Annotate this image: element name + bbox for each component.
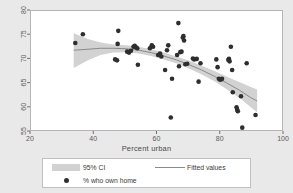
data-point [159, 54, 164, 59]
y-tick-label: 75 [20, 30, 27, 38]
data-point [116, 29, 121, 34]
data-point [198, 61, 203, 66]
y-tick-label: 60 [20, 103, 27, 111]
data-point [230, 68, 235, 73]
chart-figure: 55606570758020406080100 Percent urban 95… [0, 0, 293, 193]
data-point [239, 94, 244, 99]
data-point [253, 113, 258, 118]
data-point [179, 49, 184, 54]
data-point [220, 76, 225, 81]
data-point [240, 125, 245, 130]
data-point [196, 79, 201, 84]
data-point [181, 34, 186, 39]
chart-legend: 95% CI Fitted values % who own home [42, 158, 251, 188]
data-point [227, 59, 232, 64]
data-point [136, 62, 141, 67]
data-point [163, 68, 168, 73]
data-point [230, 90, 235, 95]
y-tick-label: 70 [20, 54, 27, 62]
data-point [166, 43, 171, 48]
legend-label-ci: 95% CI [83, 164, 105, 171]
data-point [115, 58, 120, 63]
x-tick-label: 20 [26, 135, 34, 142]
plot-canvas [31, 11, 283, 131]
data-point [236, 109, 241, 114]
x-tick-label: 60 [153, 135, 161, 142]
data-point [182, 38, 187, 43]
data-point [115, 42, 120, 47]
data-point [168, 115, 173, 120]
fitted-line [74, 48, 257, 101]
legend-entry-ci: 95% CI [49, 161, 105, 174]
legend-label-fitted: Fitted values [187, 164, 226, 171]
data-point [135, 46, 140, 51]
data-point [73, 41, 78, 46]
x-axis-title: Percent urban [0, 144, 293, 153]
data-point [214, 57, 219, 62]
data-point [151, 45, 156, 50]
data-point [229, 45, 234, 50]
data-point [165, 48, 170, 53]
legend-entry-fitted: Fitted values [153, 161, 226, 174]
legend-label-marker: % who own home [83, 177, 137, 184]
data-point [81, 32, 86, 37]
data-point [244, 61, 249, 66]
data-point [129, 48, 134, 53]
y-tick-label: 80 [20, 6, 27, 14]
y-tick-label: 55 [20, 127, 27, 135]
ci-band-swatch [49, 164, 83, 171]
data-point [185, 61, 190, 66]
x-tick-label: 40 [89, 135, 97, 142]
x-tick-label: 80 [216, 135, 224, 142]
x-tick-label: 100 [277, 135, 289, 142]
marker-dot-swatch [49, 178, 83, 183]
data-point [215, 65, 220, 70]
fitted-line-swatch [153, 167, 187, 168]
data-point [176, 21, 181, 26]
data-point [170, 76, 175, 81]
data-point [194, 57, 199, 62]
legend-entry-marker: % who own home [49, 174, 137, 187]
data-point [177, 64, 182, 69]
plot-area [30, 10, 283, 131]
y-tick-label: 65 [20, 79, 27, 87]
